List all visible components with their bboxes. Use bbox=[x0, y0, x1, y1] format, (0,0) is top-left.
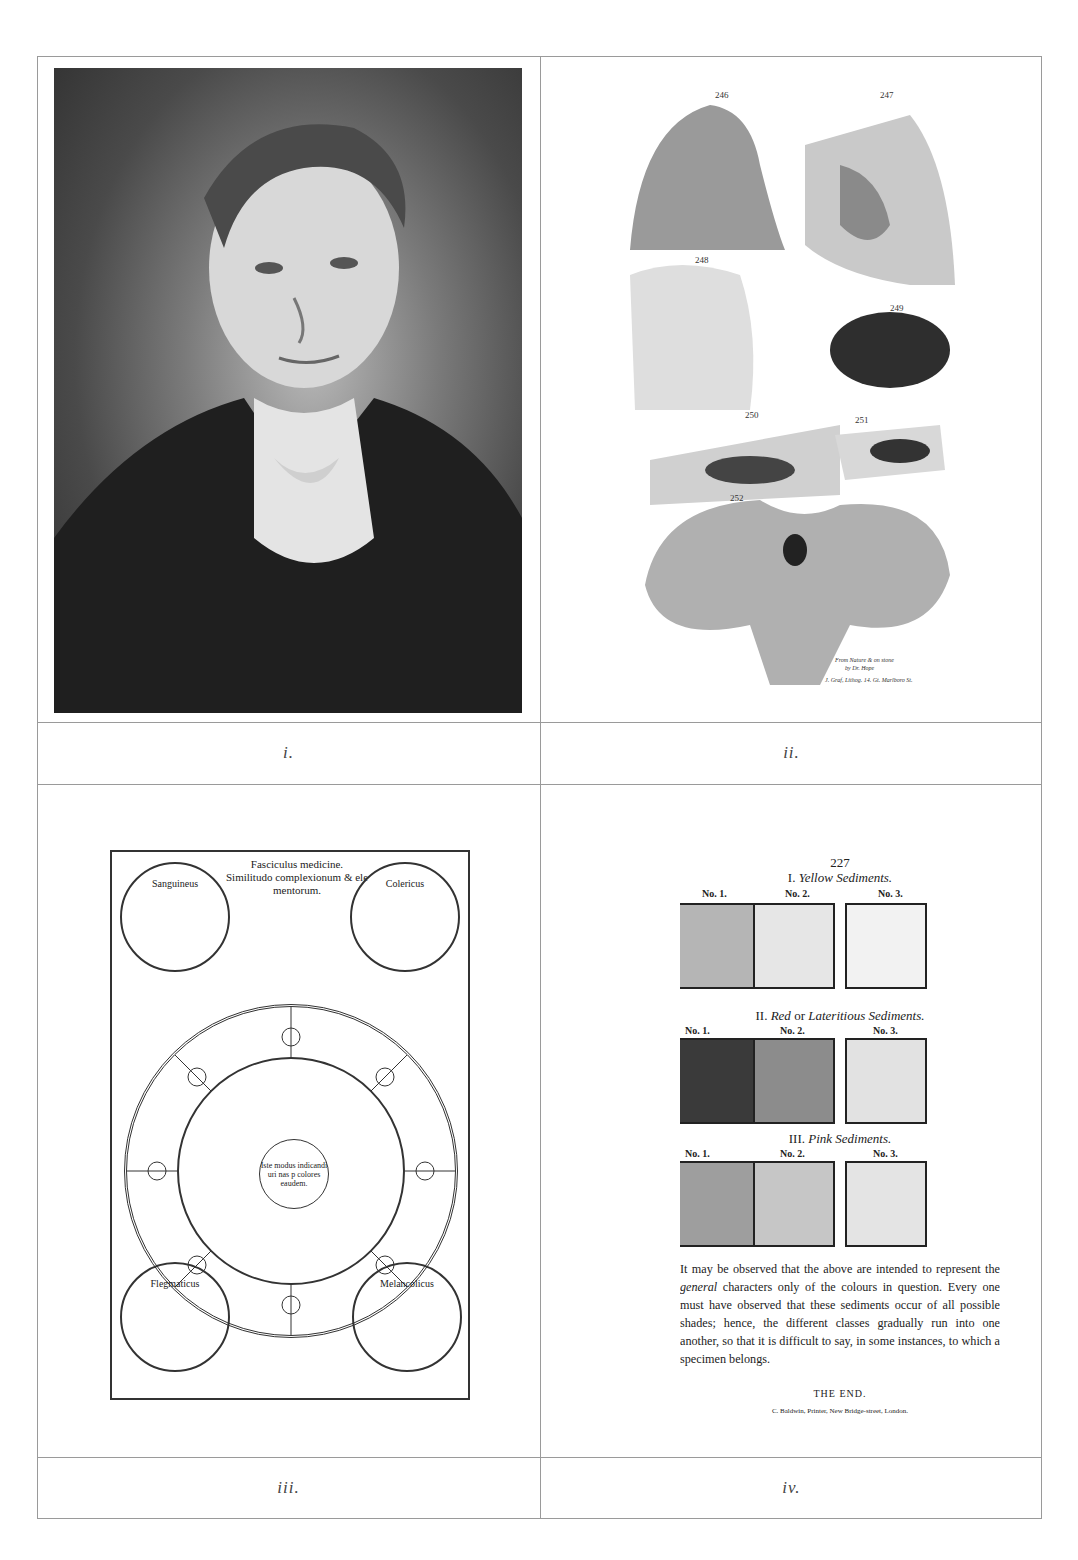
caption-i: i. bbox=[37, 723, 540, 783]
humor-flegmaticus: Flegmaticus bbox=[120, 1262, 230, 1372]
section-title-pink: III. Pink Sediments. bbox=[680, 1131, 1000, 1147]
credit-line: by Dr. Hope bbox=[845, 665, 874, 671]
swatch-pink-1 bbox=[680, 1161, 757, 1247]
title-line: Fasciculus medicine. bbox=[212, 858, 382, 871]
swatch-label: No. 3. bbox=[878, 888, 903, 899]
humor-label: Colericus bbox=[352, 878, 458, 889]
section-title-yellow: I. Yellow Sediments. bbox=[680, 870, 1000, 886]
brain-specimens-figure bbox=[600, 85, 980, 700]
section-connector: or bbox=[791, 1008, 808, 1023]
swatch-label: No. 1. bbox=[702, 888, 727, 899]
figure-number: 248 bbox=[695, 255, 709, 265]
section-numeral: I. bbox=[788, 870, 796, 885]
sediment-plate-page: 227 I. Yellow Sediments. No. 1. No. 2. N… bbox=[680, 855, 1000, 1415]
swatch-pink-2 bbox=[753, 1161, 835, 1247]
note-text: characters only of the colours in questi… bbox=[680, 1280, 1000, 1366]
row-divider bbox=[37, 784, 1042, 785]
portrait-engraving bbox=[54, 68, 522, 713]
swatch-yellow-2 bbox=[753, 903, 835, 989]
urine-wheel-woodcut: Fasciculus medicine. Similitudo complexi… bbox=[110, 850, 470, 1400]
section-name: Yellow Sediments. bbox=[799, 870, 892, 885]
section-name: Red bbox=[771, 1008, 791, 1023]
credit-line: From Nature & on stone bbox=[835, 657, 894, 663]
figure-number: 251 bbox=[855, 415, 869, 425]
figure-number: 250 bbox=[745, 410, 759, 420]
humor-melancolicus: Melancolicus bbox=[352, 1262, 462, 1372]
section-title-red: II. Red or Lateritious Sediments. bbox=[680, 1008, 1000, 1024]
figure-number: 246 bbox=[715, 90, 729, 100]
humor-label: Sanguineus bbox=[122, 878, 228, 889]
swatch-yellow-1 bbox=[680, 903, 757, 989]
swatch-red-2 bbox=[753, 1038, 835, 1124]
figure-number: 249 bbox=[890, 303, 904, 313]
section-numeral: II. bbox=[755, 1008, 767, 1023]
swatch-label: No. 2. bbox=[780, 1148, 805, 1159]
credit-line: J. Graf, Lithog. 14. Gt. Marlboro St. bbox=[825, 677, 912, 683]
section-name: Lateritious Sediments. bbox=[808, 1008, 924, 1023]
swatch-red-3 bbox=[845, 1038, 927, 1124]
section-name: Pink Sediments. bbox=[808, 1131, 891, 1146]
figure-number: 252 bbox=[730, 493, 744, 503]
swatch-label: No. 3. bbox=[873, 1148, 898, 1159]
section-numeral: III. bbox=[789, 1131, 805, 1146]
swatch-label: No. 1. bbox=[685, 1148, 710, 1159]
humor-label: Melancolicus bbox=[354, 1278, 460, 1289]
wheel-inner-ring: Iste modus indicandi uri nas p colores e… bbox=[177, 1057, 405, 1285]
closing-note: It may be observed that the above are in… bbox=[680, 1260, 1000, 1368]
caption-iii: iii. bbox=[37, 1458, 540, 1518]
portrait-figure bbox=[54, 68, 522, 713]
humor-label: Flegmaticus bbox=[122, 1278, 228, 1289]
note-text: It may be observed that the above are in… bbox=[680, 1262, 1000, 1276]
column-divider bbox=[540, 56, 541, 1519]
the-end: THE END. bbox=[680, 1388, 1000, 1399]
page-number: 227 bbox=[680, 855, 1000, 871]
wheel-center-text: Iste modus indicandi uri nas p colores e… bbox=[259, 1139, 329, 1209]
swatch-label: No. 1. bbox=[685, 1025, 710, 1036]
swatch-yellow-3 bbox=[845, 903, 927, 989]
figure-number: 247 bbox=[880, 90, 894, 100]
swatch-pink-3 bbox=[845, 1161, 927, 1247]
printer-imprint: C. Baldwin, Printer, New Bridge-street, … bbox=[680, 1407, 1000, 1415]
swatch-label: No. 2. bbox=[780, 1025, 805, 1036]
swatch-label: No. 2. bbox=[785, 888, 810, 899]
humor-colericus: Colericus bbox=[350, 862, 460, 972]
caption-ii: ii. bbox=[541, 723, 1042, 783]
humor-sanguineus: Sanguineus bbox=[120, 862, 230, 972]
note-emphasis: general bbox=[680, 1280, 717, 1294]
anatomical-plate: 246 247 248 249 250 251 252 From Nature … bbox=[600, 85, 980, 700]
caption-iv: iv. bbox=[541, 1458, 1042, 1518]
swatch-red-1 bbox=[680, 1038, 757, 1124]
swatch-label: No. 3. bbox=[873, 1025, 898, 1036]
